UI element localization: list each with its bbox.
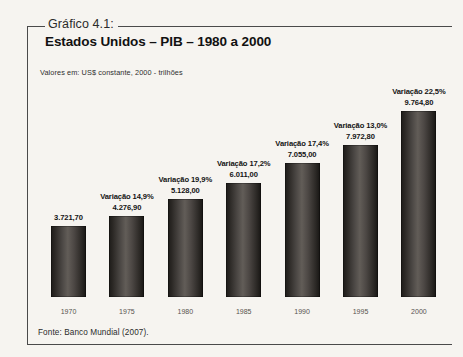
bar-group-1970: 3.721,701970: [40, 82, 97, 317]
bar-group-1980: 5.128,00Variação 19,9%1980: [157, 82, 214, 317]
x-axis-tick-1970: 1970: [40, 308, 97, 315]
frame-top-left-stub: [27, 26, 45, 27]
bar-group-1990: 7.055,00Variação 17,4%1990: [274, 82, 331, 317]
frame-top-rule: [118, 26, 452, 27]
bar-variation-label-1975: Variação 14,9%: [94, 192, 159, 201]
bar-value-label-1990: 7.055,00: [274, 150, 331, 159]
figure-source-note: Fonte: Banco Mundial (2007).: [38, 328, 149, 337]
bar-value-label-1980: 5.128,00: [157, 186, 214, 195]
bar-1970: [51, 226, 86, 297]
bar-1995: [343, 145, 378, 297]
bar-value-label-1995: 7.972,80: [332, 132, 389, 141]
bar-group-2000: 9.764,80Variação 22,5%2000: [390, 82, 447, 317]
bar-1980: [168, 199, 203, 297]
bar-value-label-1970: 3.721,70: [40, 213, 97, 222]
bar-1985: [226, 183, 261, 297]
bar-value-label-1975: 4.276,90: [98, 203, 155, 212]
x-axis-tick-1975: 1975: [98, 308, 155, 315]
x-axis-tick-2000: 2000: [390, 308, 447, 315]
bar-group-1975: 4.276,90Variação 14,9%1975: [98, 82, 155, 317]
figure-subtitle: Valores em: US$ constante, 2000 - trilhõ…: [40, 68, 183, 77]
bar-chart-plot-area: 3.721,7019704.276,90Variação 14,9%19755.…: [40, 82, 450, 317]
figure-title: Estados Unidos – PIB – 1980 a 2000: [45, 34, 271, 49]
x-axis-tick-1995: 1995: [332, 308, 389, 315]
figure-caption-label: Gráfico 4.1:: [48, 17, 114, 31]
bar-2000: [401, 111, 436, 297]
bar-group-1995: 7.972,80Variação 13,0%1995: [332, 82, 389, 317]
x-axis-tick-1980: 1980: [157, 308, 214, 315]
bar-variation-label-1995: Variação 13,0%: [328, 121, 393, 130]
bar-value-label-1985: 6.011,00: [215, 170, 272, 179]
bar-group-1985: 6.011,00Variação 17,2%1985: [215, 82, 272, 317]
frame-left-edge: [27, 26, 28, 344]
bar-1990: [285, 163, 320, 297]
bar-value-label-2000: 9.764,80: [390, 98, 447, 107]
x-axis-tick-1990: 1990: [274, 308, 331, 315]
x-axis-tick-1985: 1985: [215, 308, 272, 315]
frame-bottom-edge: [27, 344, 452, 345]
bar-variation-label-1985: Variação 17,2%: [211, 159, 276, 168]
bar-1975: [109, 216, 144, 297]
figure-container: Gráfico 4.1: Estados Unidos – PIB – 1980…: [0, 0, 463, 357]
bar-variation-label-2000: Variação 22,5%: [386, 87, 451, 96]
bar-variation-label-1980: Variação 19,9%: [153, 175, 218, 184]
bar-variation-label-1990: Variação 17,4%: [270, 139, 335, 148]
